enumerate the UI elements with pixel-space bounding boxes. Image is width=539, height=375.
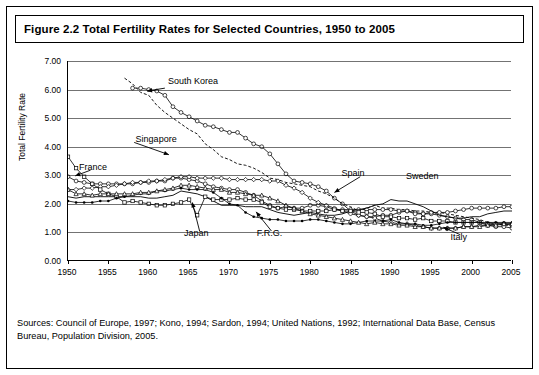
series-marker bbox=[324, 189, 328, 193]
series-marker bbox=[381, 215, 384, 218]
series-marker bbox=[317, 209, 320, 212]
series-marker bbox=[430, 219, 433, 222]
figure-frame: Figure 2.2 Total Fertility Rates for Sel… bbox=[6, 6, 533, 369]
series-marker bbox=[276, 206, 279, 209]
series-marker bbox=[421, 212, 425, 216]
series-marker bbox=[252, 198, 255, 201]
series-marker bbox=[244, 136, 248, 140]
chart-canvas bbox=[68, 61, 512, 261]
series-marker bbox=[68, 200, 69, 203]
series-marker bbox=[243, 177, 247, 181]
x-tick bbox=[68, 260, 69, 264]
series-marker bbox=[91, 182, 94, 185]
gridline bbox=[68, 232, 511, 233]
series-marker bbox=[204, 195, 207, 198]
series-marker bbox=[74, 166, 77, 169]
x-tick-label: 1985 bbox=[340, 267, 359, 277]
gridline bbox=[68, 175, 511, 176]
x-tick-label: 1990 bbox=[380, 267, 399, 277]
series-marker bbox=[115, 197, 118, 200]
series-marker bbox=[470, 221, 473, 224]
gridline bbox=[68, 90, 511, 91]
series-marker bbox=[300, 181, 304, 185]
series-marker bbox=[405, 209, 409, 213]
series-annotation-japan: Japan bbox=[184, 228, 209, 238]
series-marker bbox=[462, 221, 465, 224]
series-marker bbox=[195, 119, 199, 123]
series-marker bbox=[413, 212, 417, 216]
series-marker bbox=[301, 220, 304, 223]
series-marker bbox=[203, 123, 207, 127]
y-tick-label: 5.00 bbox=[15, 113, 61, 123]
x-tick bbox=[512, 260, 513, 264]
figure-title-bar: Figure 2.2 Total Fertility Rates for Sel… bbox=[15, 15, 524, 43]
series-marker bbox=[276, 162, 280, 166]
series-marker bbox=[244, 198, 247, 201]
series-marker bbox=[309, 218, 312, 221]
series-annotation-singapore: Singapore bbox=[136, 134, 177, 144]
series-marker bbox=[446, 211, 450, 215]
x-tick-label: 2005 bbox=[502, 267, 521, 277]
y-tick-label: 3.00 bbox=[15, 170, 61, 180]
x-tick-label: 1980 bbox=[300, 267, 319, 277]
gridline bbox=[68, 61, 511, 62]
series-marker bbox=[188, 188, 191, 191]
annotation-arrowhead bbox=[334, 188, 339, 192]
y-tick-label: 6.00 bbox=[15, 85, 61, 95]
sources-note: Sources: Council of Europe, 1997; Kono, … bbox=[17, 317, 522, 344]
series-marker bbox=[268, 205, 271, 208]
series-marker bbox=[333, 208, 336, 211]
series-marker bbox=[171, 105, 175, 109]
series-marker bbox=[268, 179, 272, 183]
series-marker bbox=[373, 208, 377, 212]
series-marker bbox=[389, 215, 392, 218]
series-marker bbox=[236, 196, 239, 199]
series-marker bbox=[381, 208, 385, 212]
series-marker bbox=[203, 176, 207, 180]
series-marker bbox=[269, 218, 272, 221]
series-marker bbox=[454, 221, 457, 224]
series-marker bbox=[260, 177, 264, 181]
y-tick-label: 4.00 bbox=[15, 142, 61, 152]
series-annotation-f-r-g: F.R.G. bbox=[257, 228, 283, 238]
y-tick-label: 7.00 bbox=[15, 56, 61, 66]
series-marker bbox=[228, 198, 231, 201]
series-marker bbox=[68, 155, 70, 158]
series-marker bbox=[478, 206, 482, 210]
x-tick-label: 2000 bbox=[461, 267, 480, 277]
series-marker bbox=[494, 206, 498, 210]
series-annotation-italy: Italy bbox=[450, 232, 467, 242]
series-marker bbox=[228, 131, 232, 135]
series-marker bbox=[227, 177, 231, 181]
x-tick bbox=[229, 260, 230, 264]
series-marker bbox=[510, 205, 512, 209]
series-marker bbox=[446, 221, 449, 224]
series-marker bbox=[285, 220, 288, 223]
series-marker bbox=[219, 128, 223, 132]
series-marker bbox=[341, 223, 344, 226]
x-tick-label: 1960 bbox=[138, 267, 157, 277]
series-marker bbox=[211, 125, 215, 129]
x-tick bbox=[472, 260, 473, 264]
x-tick bbox=[391, 260, 392, 264]
series-marker bbox=[333, 221, 336, 224]
x-tick-label: 1975 bbox=[259, 267, 278, 277]
series-marker bbox=[292, 179, 296, 183]
series-annotation-sweden: Sweden bbox=[406, 171, 439, 181]
series-marker bbox=[90, 186, 94, 190]
y-tick-label: 1.00 bbox=[15, 227, 61, 237]
series-marker bbox=[131, 199, 134, 202]
series-marker bbox=[252, 215, 255, 218]
annotation-leader bbox=[134, 142, 169, 154]
series-marker bbox=[211, 176, 215, 180]
series-annotation-france: France bbox=[79, 162, 107, 172]
series-marker bbox=[284, 208, 287, 211]
series-marker bbox=[341, 209, 344, 212]
series-marker bbox=[486, 206, 490, 210]
series-marker bbox=[389, 208, 393, 212]
series-marker bbox=[74, 179, 78, 183]
x-tick-label: 1955 bbox=[98, 267, 117, 277]
series-marker bbox=[373, 212, 376, 215]
x-tick bbox=[431, 260, 432, 264]
chart-plot-area: Total Fertility Rate 0.001.002.003.004.0… bbox=[15, 51, 524, 301]
